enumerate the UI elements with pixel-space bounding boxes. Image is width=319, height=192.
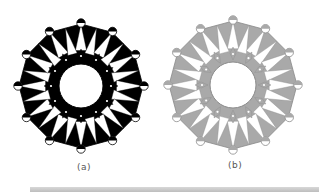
caption-b: (b) — [228, 160, 242, 170]
rosette-a-black — [14, 19, 148, 153]
caption-a: (a) — [77, 162, 91, 172]
rosette-figure — [0, 0, 319, 192]
page-edge-shadow — [30, 187, 319, 192]
rosette-b-gray — [164, 16, 302, 154]
